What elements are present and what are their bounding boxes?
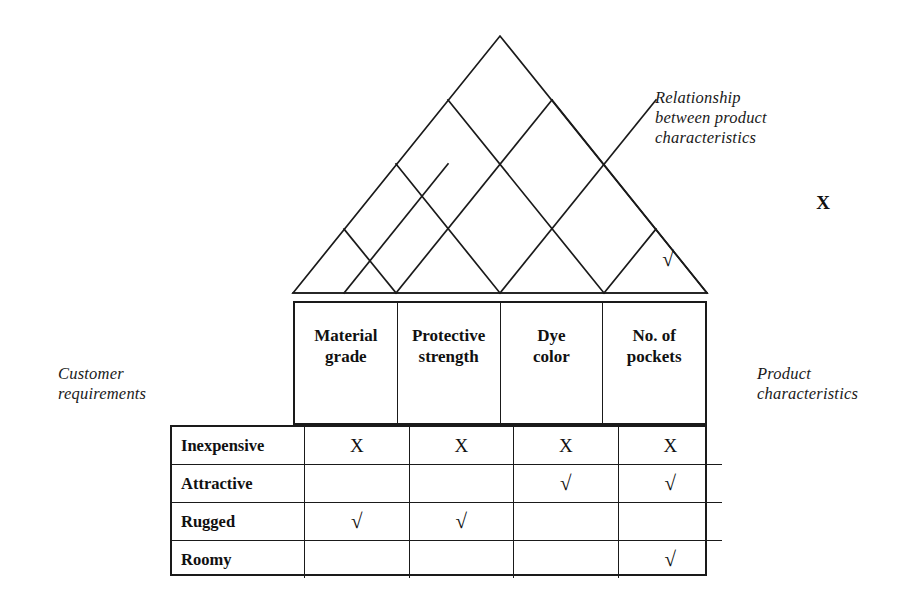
table-row: Attractive √ √ (172, 465, 722, 503)
roof-diag-up-3 (500, 100, 656, 293)
matrix-cell (514, 541, 619, 579)
matrix-cell: X (409, 427, 514, 465)
matrix-cell: √ (618, 465, 722, 503)
house-of-quality-diagram: √ X Material grade Protective strength D… (0, 0, 907, 601)
table-row: Roomy √ (172, 541, 722, 579)
matrix-cell: X (305, 427, 410, 465)
characteristic-column-protective-strength: Protective strength (398, 303, 501, 423)
requirement-label: Roomy (172, 541, 305, 579)
characteristic-label: No. of pockets (627, 325, 682, 367)
matrix-cell (409, 465, 514, 503)
matrix-cell: √ (514, 465, 619, 503)
annotation-roof-relationship: Relationship between product characteris… (655, 88, 855, 148)
matrix-cell: X (618, 427, 722, 465)
matrix-cell (409, 541, 514, 579)
roof-correlation-mark-1: √ (662, 247, 674, 272)
matrix-cell: √ (305, 503, 410, 541)
characteristic-label: Dye color (533, 325, 570, 367)
roof-diag-up-2 (396, 100, 552, 293)
matrix-cell: √ (409, 503, 514, 541)
correlation-roof: √ X (280, 25, 720, 305)
characteristic-column-dye-color: Dye color (501, 303, 604, 423)
requirement-label: Attractive (172, 465, 305, 503)
matrix-cell (305, 541, 410, 579)
roof-diag-dn-3 (448, 100, 604, 293)
table-row: Rugged √ √ (172, 503, 722, 541)
matrix-cell (514, 503, 619, 541)
roof-lattice-svg (280, 25, 720, 305)
characteristic-column-no-of-pockets: No. of pockets (603, 303, 705, 423)
characteristic-label: Material grade (314, 325, 377, 367)
product-characteristics-header: Material grade Protective strength Dye c… (293, 301, 707, 425)
requirement-label: Rugged (172, 503, 305, 541)
annotation-product-characteristics: Product characteristics (757, 364, 907, 404)
matrix-cell: √ (618, 541, 722, 579)
requirement-label: Inexpensive (172, 427, 305, 465)
relationship-matrix-table: Inexpensive X X X X Attractive √ √ Rugge… (172, 427, 722, 578)
characteristic-column-material-grade: Material grade (295, 303, 398, 423)
roof-diag-up-1 (344, 164, 448, 293)
matrix-cell (618, 503, 722, 541)
table-row: Inexpensive X X X X (172, 427, 722, 465)
annotation-customer-requirements: Customer requirements (58, 364, 218, 404)
roof-diag-up-4 (604, 229, 656, 293)
matrix-cell (305, 465, 410, 503)
relationship-matrix: Inexpensive X X X X Attractive √ √ Rugge… (170, 425, 707, 576)
matrix-cell: X (514, 427, 619, 465)
roof-correlation-mark-2: X (816, 192, 830, 214)
characteristic-label: Protective strength (412, 325, 485, 367)
